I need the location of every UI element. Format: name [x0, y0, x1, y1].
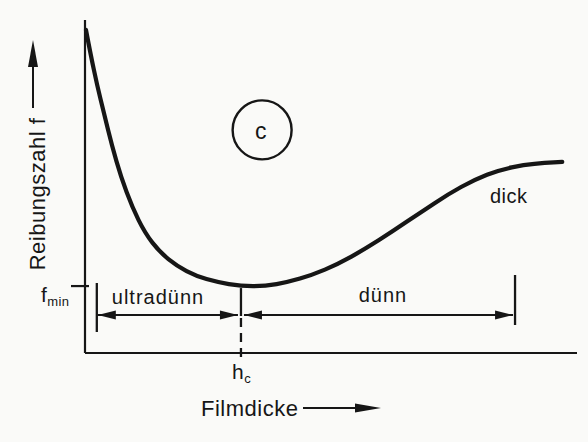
thick-region-label: dick: [490, 186, 528, 206]
region-thin-label: dünn: [359, 285, 408, 305]
arrow-head-left-icon: [244, 311, 262, 320]
friction-curve: [86, 30, 562, 286]
region-ultrathin-label: ultradünn: [112, 287, 204, 307]
hc-subscript: c: [244, 371, 251, 386]
x-axis-arrow-head-icon: [355, 404, 381, 413]
diagram-canvas: [0, 0, 588, 442]
x-axis-label: Filmdicke: [201, 398, 298, 420]
arrow-head-right-icon: [495, 311, 513, 320]
y-axis-label: Reibungszahl f: [27, 118, 49, 271]
y-axis-arrow-head-icon: [28, 40, 38, 67]
hc-base: h: [232, 360, 244, 383]
fmin-label: fmin: [41, 284, 69, 308]
friction-vs-film-thickness-figure: Reibungszahl f Filmdicke fmin hc ultradü…: [0, 0, 588, 442]
fmin-subscript: min: [47, 294, 69, 309]
arrow-head-right-icon: [220, 311, 238, 320]
arrow-head-left-icon: [98, 311, 116, 320]
hc-label: hc: [232, 361, 251, 385]
circle-marker-label: c: [255, 120, 267, 143]
